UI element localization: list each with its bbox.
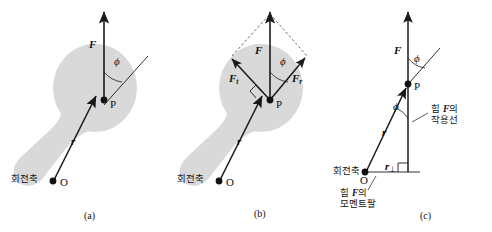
panel-b-label-comp-radial: Fr: [292, 72, 302, 86]
panel-a-label-axis: 회전축: [11, 174, 38, 185]
panel-a-label-point-p: P: [110, 98, 116, 110]
panel-c-label-moment-arm-ko: 힘 F의모멘트팔: [340, 188, 376, 209]
torque-figure: F ϕ P r O 회전축 (a) F ϕ P Ft Fr r O 회전축 (b…: [0, 0, 492, 232]
panel-c-label-angle-bottom: ϕ: [393, 100, 399, 112]
ma-ko-3: 모멘트팔: [340, 198, 376, 209]
panel-a-point-o: [50, 178, 57, 185]
panel-a-label-angle: ϕ: [114, 55, 120, 67]
panel-b-label-point-o: O: [226, 176, 234, 188]
panel-c-label-angle-top: ϕ: [414, 52, 420, 64]
panel-c-label-point-o: O: [360, 174, 368, 186]
panel-b-label-point-p: P: [276, 98, 282, 110]
panel-c-leader-line-action: [412, 113, 428, 122]
ma-ko-1: 힘: [340, 187, 352, 198]
panel-c-label-position: r: [382, 126, 386, 138]
panel-b-caption: (b): [254, 208, 266, 219]
panel-c-label-line-of-action: 힘 F의작용선: [431, 104, 458, 125]
loa-ko-1: 힘: [431, 103, 443, 114]
panel-c-label-point-p: P: [414, 80, 420, 92]
loa-ko-3: 작용선: [431, 114, 458, 125]
panel-a-point-p: [101, 97, 108, 104]
panel-b-fr-subscript: r: [299, 77, 302, 86]
panel-c-point-p: [405, 81, 412, 88]
panel-c-moment-arm-subscript: ⊥: [389, 165, 396, 174]
panel-a-caption: (a): [84, 210, 95, 221]
figure-canvas: [0, 0, 492, 232]
panel-a-label-position: r: [71, 135, 75, 147]
panel-b-label-axis: 회전축: [177, 174, 204, 185]
panel-b-point-p: [267, 97, 274, 104]
panel-b-label-angle: ϕ: [280, 55, 286, 67]
ma-ko-2: 의: [358, 187, 367, 198]
panel-b-point-o: [216, 178, 223, 185]
panel-b-label-position: r: [237, 135, 241, 147]
panel-c-label-moment-arm: r⊥: [385, 160, 396, 175]
panel-a-label-force: F: [89, 38, 96, 50]
panel-c-label-axis: 회전축: [333, 166, 360, 177]
loa-ko-2: 의: [449, 103, 458, 114]
panel-a-label-point-o: O: [60, 176, 68, 188]
panel-b-label-force: F: [255, 44, 262, 56]
panel-c-right-angle: [398, 163, 408, 172]
panel-b-ft-subscript: t: [236, 77, 238, 86]
panel-c-caption: (c): [420, 210, 431, 221]
panel-b-label-comp-tangential: Ft: [229, 72, 238, 86]
panel-c-label-force: F: [394, 44, 401, 56]
